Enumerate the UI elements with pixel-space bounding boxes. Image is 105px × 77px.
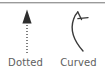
option-curved-label: Curved — [60, 57, 96, 69]
option-dotted[interactable]: Dotted — [0, 4, 52, 77]
option-curved[interactable]: Curved — [52, 4, 104, 77]
dotted-arrow-icon — [0, 4, 52, 57]
arrow-style-options: Dotted Curved — [0, 4, 105, 77]
option-dotted-label: Dotted — [8, 57, 43, 69]
arrow-style-panel: Dotted Curved — [0, 0, 105, 77]
curved-arrow-icon — [52, 4, 104, 57]
